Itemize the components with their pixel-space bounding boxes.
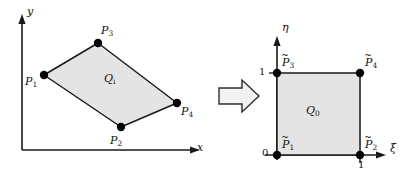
vertex-P3-tilde	[273, 69, 281, 77]
vertex-P1-tilde	[273, 151, 281, 159]
eta-axis-label: η	[282, 22, 289, 33]
maps-to-arrow	[219, 80, 259, 112]
y-axis-label: y	[27, 6, 33, 17]
tick-label-origin: 0	[262, 148, 268, 158]
xi-axis-label: ξ	[390, 143, 396, 154]
vertex-label-P4-tilde: ~P4	[365, 57, 377, 69]
vertex-P3	[94, 39, 102, 47]
vertex-label-P1-tilde: ~P1	[282, 139, 294, 151]
tick-label-eta-one: 1	[259, 67, 265, 77]
vertex-P1	[40, 71, 48, 79]
vertex-P4-tilde	[356, 69, 364, 77]
eta-axis-arrowhead	[273, 36, 280, 46]
vertex-label-P2-tilde: ~P2	[365, 139, 377, 151]
region-label-Q0: Q0	[306, 105, 320, 117]
xi-axis-arrowhead	[376, 151, 386, 158]
quadrilateral-mapping-figure: y x Qi P1 P2 P3 P4 η ξ Q0 0 1 1 ~P1 ~P2 …	[0, 0, 411, 176]
block-arrow-shape	[219, 80, 259, 112]
figure-canvas	[0, 0, 411, 176]
vertex-label-P3-tilde: ~P3	[282, 57, 294, 69]
vertex-label-P4: P4	[181, 106, 193, 118]
vertex-P2-tilde	[356, 151, 364, 159]
tick-label-xi-one: 1	[358, 160, 364, 170]
y-axis-arrowhead	[18, 14, 25, 24]
vertex-label-P3: P3	[101, 25, 113, 37]
region-label-Qi: Qi	[104, 73, 115, 85]
x-axis-label: x	[197, 142, 203, 153]
vertex-P2	[117, 123, 125, 131]
vertex-P4	[173, 99, 181, 107]
vertex-label-P1: P1	[25, 76, 37, 88]
vertex-label-P2: P2	[110, 135, 122, 147]
